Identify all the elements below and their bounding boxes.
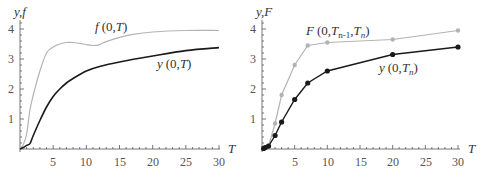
- data-point-marker: [305, 80, 310, 85]
- x-tick-label: 10: [80, 155, 92, 169]
- right-chart: 5 10 15 20 25 30 1 2 3 4 y,F T F(0,Tn-1,…: [241, 0, 482, 172]
- x-tick-label: 25: [180, 155, 192, 169]
- x-tick-label: 20: [387, 155, 399, 169]
- x-tick-label: 10: [322, 155, 334, 169]
- data-point-marker: [325, 68, 330, 73]
- left-chart: 5 10 15 20 25 30 1 2 3 4 y,f T f(0,T) y(…: [0, 0, 241, 172]
- right-chart-panel: 5 10 15 20 25 30 1 2 3 4 y,F T F(0,Tn-1,…: [241, 0, 482, 172]
- data-point-marker: [279, 119, 284, 124]
- data-point-marker: [390, 37, 394, 41]
- left-y-minor-ticks: [20, 23, 24, 143]
- data-point-marker: [292, 63, 296, 67]
- F-series-label: F(0,Tn-1,Tn): [305, 23, 370, 40]
- right-y-axis-label: y,F: [254, 4, 273, 19]
- y-tick-label: 1: [250, 112, 256, 126]
- right-y-tick-labels: 1 2 3 4: [250, 22, 256, 126]
- data-point-marker: [279, 93, 283, 97]
- y-tick-label: 4: [250, 22, 256, 36]
- x-tick-label: 15: [355, 155, 367, 169]
- left-y-tick-labels: 1 2 3 4: [8, 22, 14, 126]
- y-tick-label: 3: [8, 52, 14, 66]
- data-point-marker: [292, 97, 297, 102]
- x-tick-label: 20: [147, 155, 159, 169]
- y-tick-label: 2: [8, 82, 14, 96]
- data-point-marker: [456, 28, 460, 32]
- data-point-marker: [273, 121, 277, 125]
- f-curve-label: f(0,T): [95, 19, 127, 34]
- left-x-axis-label: T: [228, 141, 236, 156]
- F-series-line: [264, 31, 458, 149]
- x-tick-label: 5: [50, 155, 56, 169]
- F-series-markers: [261, 28, 460, 150]
- y-series-markers: [261, 44, 461, 151]
- data-point-marker: [455, 44, 460, 49]
- right-x-tick-labels: 5 10 15 20 25 30: [292, 155, 464, 169]
- right-x-minor-ticks: [269, 145, 458, 149]
- x-tick-label: 5: [292, 155, 298, 169]
- data-point-marker: [306, 43, 310, 47]
- x-tick-label: 15: [114, 155, 126, 169]
- y-series-label: y(0,Tn): [377, 60, 418, 77]
- left-axes: [20, 20, 220, 152]
- data-point-marker: [266, 143, 271, 148]
- x-tick-label: 30: [452, 155, 464, 169]
- data-point-marker: [390, 52, 395, 57]
- left-chart-panel: 5 10 15 20 25 30 1 2 3 4 y,f T f(0,T) y(…: [0, 0, 241, 172]
- y-series-line: [264, 47, 458, 148]
- left-y-axis-label: y,f: [12, 4, 28, 19]
- left-x-tick-labels: 5 10 15 20 25 30: [50, 155, 225, 169]
- y-tick-label: 3: [250, 52, 256, 66]
- f-curve: [20, 30, 219, 149]
- data-point-marker: [272, 133, 277, 138]
- right-y-minor-ticks: [262, 23, 266, 143]
- left-x-minor-ticks: [27, 145, 219, 149]
- data-point-marker: [325, 40, 329, 44]
- x-tick-label: 30: [213, 155, 225, 169]
- x-tick-label: 25: [420, 155, 432, 169]
- y-tick-label: 2: [250, 82, 256, 96]
- right-x-axis-label: T: [468, 141, 476, 156]
- y-tick-label: 4: [8, 22, 14, 36]
- y-tick-label: 1: [8, 112, 14, 126]
- y-curve-label: y(0,T): [155, 56, 191, 71]
